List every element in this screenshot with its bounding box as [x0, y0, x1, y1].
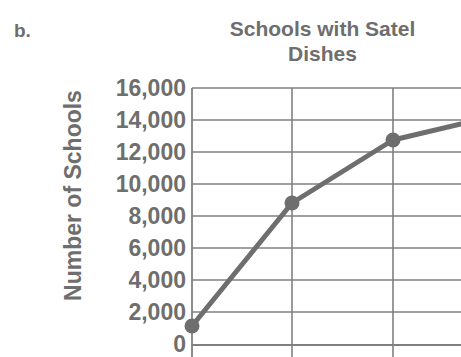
data-point-marker	[285, 196, 300, 211]
horizontal-gridlines	[192, 88, 461, 345]
data-point-marker	[386, 133, 401, 148]
vertical-gridlines	[192, 88, 393, 357]
data-line	[192, 124, 461, 326]
chart-figure: b. Schools with Satel Dishes Number of S…	[0, 0, 461, 357]
plot-area	[0, 0, 461, 357]
data-point-marker	[185, 319, 200, 334]
